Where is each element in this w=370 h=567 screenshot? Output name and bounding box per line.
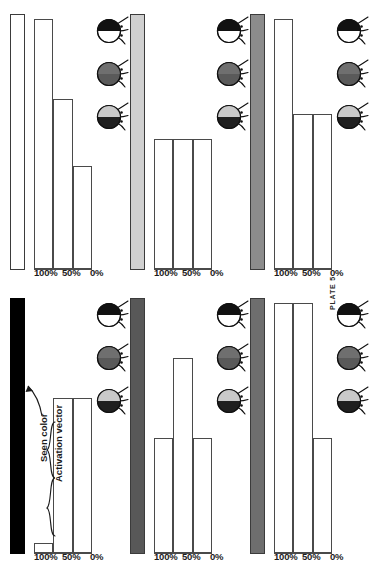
seen-color-bar [130,298,145,554]
bee-head-svg [336,341,370,375]
bar-group [274,296,332,553]
axis-tick-label-100pct: 100% [34,551,58,562]
bee-head-svg [216,14,250,48]
activation-bar-2 [293,303,312,553]
activation-bar-1 [154,438,173,553]
activation-vector-plot [274,296,332,554]
bee-head-svg [96,341,130,375]
activation-bar-3 [193,139,212,269]
bee-icon-light-top-black-bottom-panel-bottom-middle [216,384,250,418]
axis-tick-label-0pct: 0% [210,551,223,562]
axis-tick-label-50pct: 50% [62,551,80,562]
bee-icon-dark-gray-uniform-panel-top-left [96,57,130,91]
activation-bar-1 [274,19,293,269]
bar-group [34,12,92,269]
bee-icon-light-top-black-bottom-panel-top-left [96,100,130,134]
seen-color-bar [250,298,265,554]
activation-bar-3 [193,438,212,553]
bee-head-svg [336,298,370,332]
bee-head-svg [336,57,370,91]
bee-head-svg [216,384,250,418]
seen-color-bar [250,14,265,270]
activation-bar-2 [293,114,312,269]
bar-group [154,12,212,269]
axis-tick-label-0pct: 0% [90,267,103,278]
bee-head-svg [216,57,250,91]
seen-color-pointer [20,380,46,424]
activation-bar-3 [73,398,92,553]
activation-vector-plot [154,296,212,554]
bee-head-svg [96,100,130,134]
activation-bar-2 [53,99,72,269]
seen-color-bar [130,14,145,270]
bee-head-svg [336,100,370,134]
activation-bar-3 [313,438,332,553]
bee-icon-light-top-black-bottom-panel-bottom-left [96,384,130,418]
activation-bar-2 [173,139,192,269]
plate-caption: PLATE 5 [329,276,336,310]
activation-vector-plot [154,12,212,270]
activation-vector-plot [274,12,332,270]
axis-tick-label-50pct: 50% [302,551,320,562]
axis-tick-label-50pct: 50% [302,267,320,278]
seen-color-bar [10,298,25,554]
bar-group [274,12,332,269]
bee-head-svg [96,298,130,332]
seen-color-bar [10,14,25,270]
bee-icon-dark-gray-uniform-panel-top-right [336,57,370,91]
bee-icon-dark-gray-uniform-panel-top-middle [216,57,250,91]
bee-icon-light-top-black-bottom-panel-bottom-right [336,384,370,418]
axis-tick-label-100pct: 100% [274,551,298,562]
activation-bar-2 [173,358,192,553]
activation-bar-1 [154,139,173,269]
axis-tick-label-100pct: 100% [274,267,298,278]
activation-bar-1 [274,303,293,553]
bee-head-svg [96,57,130,91]
bee-icon-black-top-white-bottom-panel-top-right [336,14,370,48]
axis-tick-label-0pct: 0% [210,267,223,278]
activation-vector-plot [34,12,92,270]
bee-icon-light-top-black-bottom-panel-top-right [336,100,370,134]
bee-head-svg [96,384,130,418]
bee-icon-black-top-white-bottom-panel-top-middle [216,14,250,48]
activation-vector-brace [44,420,58,542]
axis-tick-label-50pct: 50% [182,267,200,278]
axis-tick-label-100pct: 100% [154,267,178,278]
activation-bar-3 [73,167,92,270]
bee-icon-black-top-white-bottom-panel-bottom-middle [216,298,250,332]
bee-icon-dark-gray-uniform-panel-bottom-middle [216,341,250,375]
bee-icon-light-top-black-bottom-panel-top-middle [216,100,250,134]
activation-bar-3 [313,114,332,269]
bee-head-svg [336,384,370,418]
activation-bar-1 [34,19,53,269]
axis-tick-label-100pct: 100% [34,267,58,278]
bee-icon-dark-gray-uniform-panel-bottom-left [96,341,130,375]
axis-tick-label-50pct: 50% [182,551,200,562]
bee-head-svg [216,298,250,332]
bee-icon-dark-gray-uniform-panel-bottom-right [336,341,370,375]
bee-icon-black-top-white-bottom-panel-bottom-right [336,298,370,332]
axis-tick-label-0pct: 0% [330,551,343,562]
axis-tick-label-100pct: 100% [154,551,178,562]
bee-head-svg [216,100,250,134]
bee-icon-black-top-white-bottom-panel-top-left [96,14,130,48]
axis-tick-label-0pct: 0% [90,551,103,562]
bar-group [154,296,212,553]
bee-head-svg [336,14,370,48]
bee-icon-black-top-white-bottom-panel-bottom-left [96,298,130,332]
axis-tick-label-50pct: 50% [62,267,80,278]
bee-head-svg [96,14,130,48]
bee-head-svg [216,341,250,375]
